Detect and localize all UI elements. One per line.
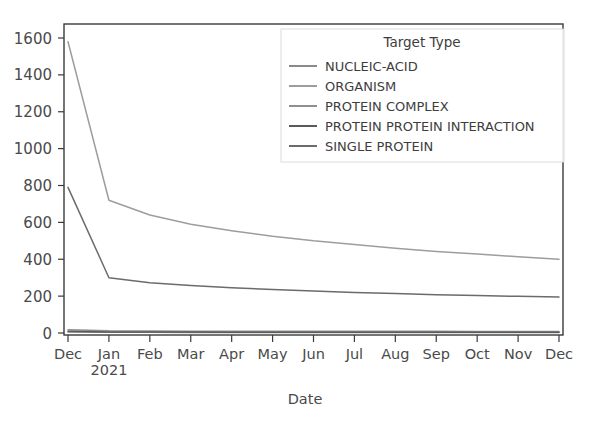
legend-label: PROTEIN COMPLEX	[325, 99, 449, 114]
x-tick-label: Jul	[345, 346, 364, 362]
x-tick-label: Jun	[301, 346, 325, 362]
x-tick-label: Dec	[545, 346, 573, 362]
x-tick-label: Nov	[504, 346, 533, 362]
y-tick-label: 600	[23, 214, 52, 232]
legend-label: NUCLEIC-ACID	[325, 59, 418, 74]
y-tick-label: 200	[23, 288, 52, 306]
x-tick-label: Dec	[54, 346, 82, 362]
y-tick-label: 800	[23, 177, 52, 195]
legend-label: PROTEIN PROTEIN INTERACTION	[325, 119, 535, 134]
x-tick-label: Jan	[97, 346, 120, 362]
chart-figure: 02004006008001000120014001600 DecJan2021…	[0, 0, 596, 424]
y-tick-label: 400	[23, 251, 52, 269]
y-tick-label: 0	[42, 325, 52, 343]
x-axis-title: Date	[288, 391, 323, 407]
x-tick-label: May	[258, 346, 288, 362]
legend-label: SINGLE PROTEIN	[325, 139, 433, 154]
x-tick-label: Aug	[381, 346, 409, 362]
legend-label: ORGANISM	[325, 79, 396, 94]
y-tick-label: 1200	[14, 103, 52, 121]
x-tick-label: Sep	[423, 346, 450, 362]
x-tick-label: Oct	[465, 346, 490, 362]
legend-title: Target Type	[382, 34, 460, 50]
y-tick-label: 1600	[14, 30, 52, 48]
line-chart: 02004006008001000120014001600 DecJan2021…	[0, 0, 596, 424]
chart-legend[interactable]: Target Type NUCLEIC-ACIDORGANISMPROTEIN …	[281, 29, 564, 162]
y-tick-label: 1000	[14, 140, 52, 158]
x-tick-label: Feb	[137, 346, 163, 362]
y-tick-label: 1400	[14, 66, 52, 84]
x-tick-sublabel: 2021	[90, 362, 127, 378]
x-tick-label: Apr	[219, 346, 244, 362]
x-tick-label: Mar	[177, 346, 204, 362]
